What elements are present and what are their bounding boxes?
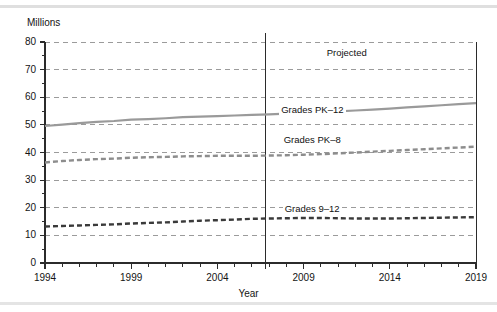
series-label-grades-9-12: Grades 9–12 [283, 203, 342, 214]
series-line-2 [45, 217, 476, 226]
scan-artifact-band-bottom [0, 302, 497, 305]
y-tick-label-60: 60 [14, 91, 36, 102]
x-tick-label-2019: 2019 [456, 272, 496, 283]
y-tick-label-20: 20 [14, 202, 36, 213]
y-tick-label-30: 30 [14, 174, 36, 185]
y-tick-label-0: 0 [14, 257, 36, 268]
y-tick-label-40: 40 [14, 147, 36, 158]
x-tick-label-1994: 1994 [25, 272, 65, 283]
series-line-1 [45, 147, 476, 163]
y-tick-label-50: 50 [14, 119, 36, 130]
y-axis-title: Millions [27, 17, 60, 28]
plot-canvas [0, 0, 497, 312]
x-tick-label-1999: 1999 [111, 272, 151, 283]
scan-artifact-band-top [0, 5, 497, 8]
y-tick-label-10: 10 [14, 229, 36, 240]
x-tick-label-2004: 2004 [197, 272, 237, 283]
x-axis-title: Year [0, 288, 497, 299]
series-line-0 [45, 103, 476, 126]
series-label-grades-pk-12: Grades PK–12 [279, 104, 345, 115]
chart-figure: Millions Year Projected Grades PK–12 Gra… [0, 0, 497, 312]
x-tick-label-2014: 2014 [370, 272, 410, 283]
series-label-grades-pk-8: Grades PK–8 [282, 134, 343, 145]
y-tick-label-80: 80 [14, 36, 36, 47]
projected-annotation: Projected [327, 47, 367, 58]
x-tick-label-2009: 2009 [284, 272, 324, 283]
y-tick-label-70: 70 [14, 64, 36, 75]
